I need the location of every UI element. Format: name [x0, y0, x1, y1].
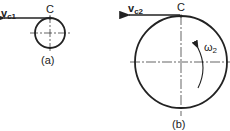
vc1-label: vc1	[1, 8, 16, 19]
angular-velocity-arrow	[198, 48, 203, 88]
figure-b-caption: (b)	[172, 119, 185, 130]
omega2-label: ω2	[204, 42, 217, 53]
c-label-a: C	[46, 4, 54, 15]
diagram: vc1 C (a) vc2 C ω2 (b)	[0, 0, 230, 131]
figure-b	[129, 14, 230, 116]
figure-a-caption: (a)	[41, 55, 54, 66]
vc2-label: vc2	[128, 3, 143, 14]
c-label-b: C	[177, 2, 185, 13]
diagram-svg	[0, 0, 230, 131]
